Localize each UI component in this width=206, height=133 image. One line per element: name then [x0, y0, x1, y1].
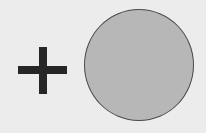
diagram-canvas	[0, 0, 206, 133]
gray-circle	[84, 9, 194, 121]
plus-horizontal-bar	[18, 66, 67, 74]
